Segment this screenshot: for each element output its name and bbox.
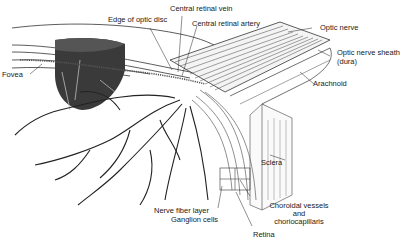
label-retina: Retina — [253, 231, 275, 239]
label-optic-nerve-sheath: Optic nerve sheath — [337, 49, 400, 57]
retina-wall — [192, 90, 256, 200]
label-sclera: Sclera — [261, 159, 282, 167]
label-central-retinal-artery: Central retinal artery — [192, 20, 260, 28]
fovea-block — [55, 38, 125, 110]
label-central-retinal-vein: Central retinal vein — [170, 5, 233, 13]
label-edge-optic-disc: Edge of optic disc — [108, 16, 167, 24]
anatomy-figure: Fovea Edge of optic disc Central retinal… — [0, 0, 406, 243]
label-arachnoid: Arachnoid — [313, 80, 347, 88]
label-ganglion-cells: Ganglion cells — [171, 216, 218, 224]
label-fovea: Fovea — [2, 71, 23, 79]
retinal-vessels — [15, 92, 208, 205]
label-choriocapillaris: choriocapillaris — [252, 218, 346, 226]
label-nerve-fiber-layer: Nerve fiber layer — [154, 207, 209, 215]
label-optic-nerve-sheath-dura: (dura) — [337, 58, 357, 66]
label-optic-nerve: Optic nerve — [320, 24, 358, 32]
sclera-block — [250, 104, 292, 210]
